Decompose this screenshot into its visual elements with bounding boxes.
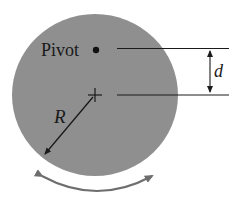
- oscillation-arrow: [42, 176, 152, 191]
- pivot-dot: [93, 47, 99, 53]
- pendulum-diagram: Pivot R d: [0, 0, 247, 203]
- pivot-label: Pivot: [41, 40, 79, 60]
- distance-label: d: [214, 61, 224, 81]
- radius-label: R: [53, 106, 66, 127]
